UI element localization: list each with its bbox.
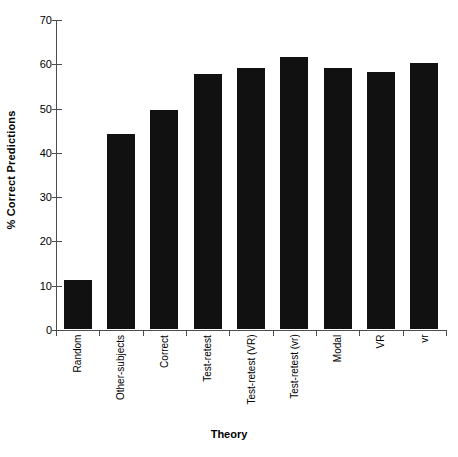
bar (237, 68, 265, 329)
x-axis-category-label: VR (359, 335, 402, 427)
y-axis-tick-mark (52, 64, 62, 65)
x-axis-category-label: Random (56, 335, 99, 427)
y-axis-tick-label: 60 (26, 59, 52, 69)
y-axis-tick-label: 30 (26, 192, 52, 202)
bar (324, 68, 352, 329)
y-axis-tick-mark (52, 153, 62, 154)
x-axis-category-label: Correct (143, 335, 186, 427)
x-axis-category-label: Modal (316, 335, 359, 427)
bar (367, 72, 395, 329)
y-axis-tick-label: 0 (26, 325, 52, 335)
x-axis-category-label: Test-retest (186, 335, 229, 427)
y-axis-tick-mark (52, 286, 62, 287)
bar-chart-figure: % Correct Predictions 010203040506070 Ra… (0, 0, 458, 457)
x-axis-category-label-text: Other-subjects (116, 334, 127, 399)
bar (280, 57, 308, 329)
y-axis-tick-label: 70 (26, 15, 52, 25)
x-axis-category-label: vr (403, 335, 446, 427)
y-axis-tick-mark (52, 20, 62, 21)
x-axis-category-label-text: vr (419, 334, 430, 342)
y-axis-tick-mark (52, 197, 62, 198)
x-axis-category-label-text: Test-retest (vr) (289, 334, 300, 398)
x-axis-category-label-text: Modal (332, 334, 343, 361)
y-axis-line (56, 20, 57, 331)
y-axis-tick-label: 20 (26, 236, 52, 246)
x-axis-category-label: Test-retest (VR) (229, 335, 272, 427)
y-axis-tick-label: 40 (26, 148, 52, 158)
bar (64, 280, 92, 329)
bar (107, 134, 135, 329)
y-axis-tick-mark (52, 109, 62, 110)
bar (194, 74, 222, 329)
plot-area (56, 20, 446, 330)
x-axis-category-label-text: Random (72, 335, 83, 373)
x-axis-tick-mark (446, 330, 447, 336)
x-axis-category-labels: RandomOther-subjectsCorrectTest-retestTe… (56, 331, 446, 427)
x-axis-category-label-text: Test-retest (202, 335, 213, 382)
x-axis-category-label-text: Correct (159, 335, 170, 368)
x-axis-category-label: Test-retest (vr) (273, 335, 316, 427)
y-axis-tick-label: 10 (26, 281, 52, 291)
x-axis-title: Theory (0, 428, 458, 440)
x-axis-category-label: Other-subjects (99, 335, 142, 427)
y-axis-tick-labels: 010203040506070 (22, 0, 52, 457)
x-axis-category-label-text: VR (375, 335, 386, 349)
y-axis-tick-label: 50 (26, 104, 52, 114)
x-axis-category-label-text: Test-retest (VR) (245, 334, 256, 404)
y-axis-tick-mark (52, 241, 62, 242)
bar (410, 63, 438, 329)
bar (150, 110, 178, 329)
y-axis-title: % Correct Predictions (5, 110, 17, 229)
y-axis-title-container: % Correct Predictions (0, 0, 22, 340)
